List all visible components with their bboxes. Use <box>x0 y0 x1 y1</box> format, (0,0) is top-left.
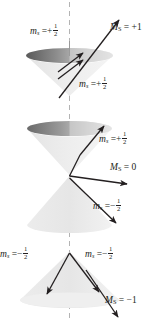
fraction-denominator: 2 <box>122 139 127 146</box>
label-sub-s: s <box>7 252 9 259</box>
label-value: 0 <box>132 162 137 172</box>
label-sub-S: S <box>118 25 122 32</box>
label-sign: + <box>47 26 52 36</box>
label-ms-plus-half-mid: ms =+12 <box>99 131 127 145</box>
label-eq: = <box>119 295 124 305</box>
label-ms-minus-half-mid: ms =−12 <box>93 198 121 212</box>
label-symbol-m: m <box>93 201 100 211</box>
label-symbol-m: m <box>0 249 7 259</box>
label-symbol-m: m <box>85 249 92 259</box>
label-symbol-M: M <box>105 295 113 305</box>
label-symbol-m: m <box>99 134 106 144</box>
label-sub-s: s <box>106 137 108 144</box>
panel-ms-minus-1 <box>20 252 119 317</box>
vector-Ms-zero <box>70 176 128 184</box>
label-sub-s: s <box>86 82 88 89</box>
fraction-denominator: 2 <box>108 254 113 261</box>
label-value: −1 <box>127 295 137 305</box>
label-symbol-M: M <box>110 22 118 32</box>
fraction-one-half: 12 <box>53 23 58 37</box>
label-symbol-m: m <box>79 79 86 89</box>
label-sign: + <box>96 79 101 89</box>
label-sub-s: s <box>37 29 39 36</box>
label-Ms-minus-1: MS = −1 <box>105 296 137 306</box>
label-sign: − <box>17 249 22 259</box>
fraction-denominator: 2 <box>102 84 107 91</box>
label-sub-s: s <box>92 252 94 259</box>
label-symbol-M: M <box>110 162 118 172</box>
fraction-one-half: 12 <box>116 198 121 212</box>
label-Ms-zero: MS = 0 <box>110 163 136 173</box>
label-sub-s: s <box>100 204 102 211</box>
label-ms-plus-half-top: ms =+12 <box>30 23 58 37</box>
label-value: +1 <box>132 22 142 32</box>
fraction-one-half: 12 <box>102 76 107 90</box>
label-sign: + <box>116 134 121 144</box>
label-sign: − <box>110 201 115 211</box>
fraction-denominator: 2 <box>23 254 28 261</box>
label-sub-S: S <box>118 165 122 172</box>
label-ms-minus-half-left: ms =−12 <box>0 246 28 260</box>
fraction-denominator: 2 <box>53 31 58 38</box>
label-eq: = <box>124 162 129 172</box>
label-sub-S: S <box>113 298 117 305</box>
label-ms-plus-half-top-lower: ms =+12 <box>79 76 107 90</box>
label-ms-minus-half-right: ms =−12 <box>85 246 113 260</box>
label-symbol-m: m <box>30 26 37 36</box>
label-sign: − <box>102 249 107 259</box>
fraction-denominator: 2 <box>116 206 121 213</box>
fraction-one-half: 12 <box>23 246 28 260</box>
fraction-one-half: 12 <box>122 131 127 145</box>
fraction-one-half: 12 <box>108 246 113 260</box>
label-Ms-plus-1: MS = +1 <box>110 23 142 33</box>
label-eq: = <box>124 22 129 32</box>
